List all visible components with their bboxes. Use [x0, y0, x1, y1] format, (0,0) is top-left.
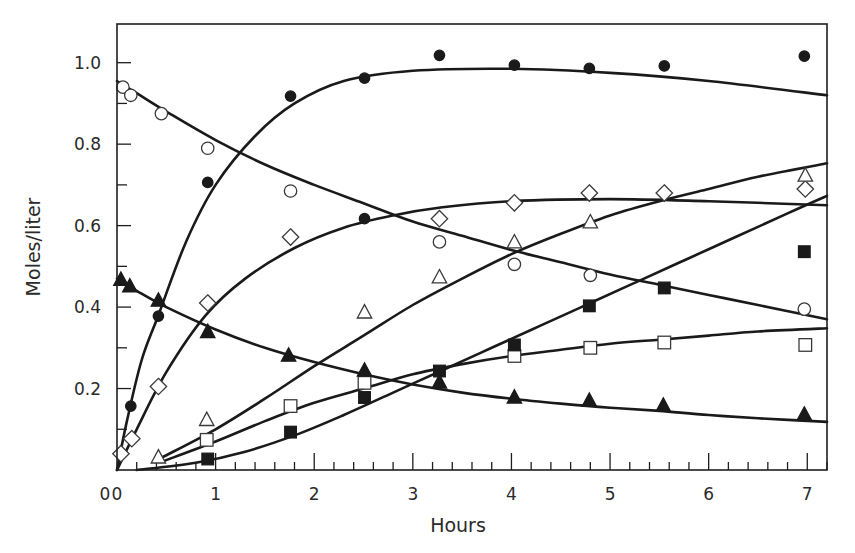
- filled-square-marker: [658, 282, 670, 294]
- filled-circle-marker: [203, 177, 213, 187]
- filled-circle-marker: [153, 311, 163, 321]
- open-circle-marker: [798, 303, 810, 315]
- open-square-marker: [658, 336, 671, 349]
- fitted-curves: [117, 69, 827, 470]
- open-circle-marker: [584, 269, 596, 281]
- open-circle-marker: [155, 107, 167, 119]
- filled-square-marker: [285, 426, 297, 438]
- open-triangle-marker: [200, 412, 214, 425]
- y-tick-label: 1.0: [74, 53, 101, 73]
- filled-circle-marker: [799, 51, 809, 61]
- y-tick-label: 0.6: [74, 216, 101, 236]
- open-circle-marker: [284, 185, 296, 197]
- open-square-marker: [284, 400, 297, 413]
- open-circle-marker: [508, 258, 520, 270]
- x-tick-label: 7: [802, 484, 813, 504]
- open-triangle-marker: [798, 168, 812, 181]
- x-tick-label: 5: [605, 484, 616, 504]
- open-square-curve: [161, 328, 827, 462]
- x-tick-label: 0: [112, 484, 123, 504]
- filled-square-marker: [584, 300, 596, 312]
- filled-square-marker: [509, 339, 521, 351]
- open-triangle-marker: [507, 235, 521, 248]
- filled-square-marker: [202, 453, 214, 465]
- open-square-marker: [584, 342, 597, 355]
- axis-ticks: [117, 63, 827, 470]
- filled-circle-marker: [434, 50, 444, 60]
- filled-circle-marker: [359, 213, 369, 223]
- filled-triangle-marker: [507, 390, 521, 403]
- filled-triangle-curve: [117, 279, 827, 422]
- open-square-marker: [799, 339, 812, 352]
- x-tick-label: 4: [506, 484, 517, 504]
- open-square-marker: [200, 434, 213, 447]
- filled-circle-marker: [285, 91, 295, 101]
- filled-circle-marker: [509, 60, 519, 70]
- plot-frame: [117, 24, 827, 470]
- origin-label: 0: [100, 484, 111, 504]
- filled-triangle-marker: [656, 398, 670, 411]
- open-circle-curve: [117, 81, 827, 319]
- open-diamond-marker: [797, 181, 813, 197]
- y-tick-label: 0.8: [74, 134, 101, 154]
- filled-square-marker: [359, 392, 371, 404]
- filled-triangle-marker: [582, 393, 596, 406]
- open-diamond-marker: [506, 195, 522, 211]
- filled-circle-marker: [659, 61, 669, 71]
- chart-svg: 012345670.20.40.60.81.00 Hours Moles/lit…: [0, 0, 855, 553]
- open-diamond-marker: [124, 430, 140, 446]
- open-triangle-curve: [161, 163, 827, 458]
- filled-triangle-marker: [797, 407, 811, 420]
- open-square-marker: [358, 377, 371, 390]
- open-diamond-marker: [150, 378, 166, 394]
- filled-circle-curve: [117, 69, 827, 470]
- open-diamond-marker: [431, 210, 447, 226]
- open-circle-marker: [202, 142, 214, 154]
- open-square-marker: [508, 350, 521, 363]
- y-tick-label: 0.4: [74, 297, 101, 317]
- x-tick-label: 6: [703, 484, 714, 504]
- filled-triangle-marker: [357, 363, 371, 376]
- filled-circle-marker: [584, 63, 594, 73]
- open-diamond-marker: [200, 295, 216, 311]
- filled-square-curve: [137, 196, 827, 470]
- open-triangle-marker: [357, 305, 371, 318]
- x-axis-title: Hours: [430, 514, 486, 536]
- x-tick-label: 3: [407, 484, 418, 504]
- open-diamond-marker: [282, 229, 298, 245]
- data-markers: [113, 50, 814, 465]
- filled-circle-marker: [126, 401, 136, 411]
- open-triangle-marker: [432, 270, 446, 283]
- x-tick-label: 1: [210, 484, 221, 504]
- y-axis-title: Moles/liter: [22, 197, 44, 296]
- filled-triangle-marker: [201, 324, 215, 337]
- x-tick-label: 2: [309, 484, 320, 504]
- filled-circle-marker: [359, 73, 369, 83]
- open-circle-marker: [433, 236, 445, 248]
- open-circle-marker: [125, 89, 137, 101]
- filled-square-marker: [799, 246, 811, 258]
- y-tick-label: 0.2: [74, 379, 101, 399]
